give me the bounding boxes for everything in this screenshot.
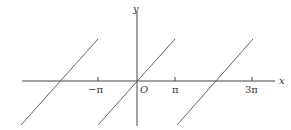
sawtooth-chart: y x O −π π 3π	[0, 0, 291, 130]
x-axis-label: x	[279, 76, 285, 86]
y-axis-label: y	[133, 4, 139, 14]
tick-label-neg-pi: −π	[88, 85, 103, 95]
tick-label-3pi: 3π	[245, 85, 258, 95]
origin-label: O	[140, 85, 148, 95]
sawtooth-segment-3	[177, 39, 253, 125]
tick-label-pi: π	[172, 85, 179, 95]
sawtooth-segment-1	[21, 39, 98, 125]
chart-plot-area	[0, 0, 291, 130]
